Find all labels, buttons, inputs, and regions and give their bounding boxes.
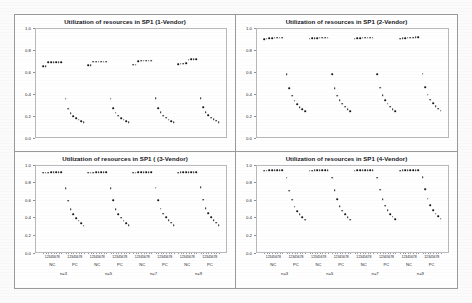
data-point xyxy=(263,170,265,172)
data-point xyxy=(125,120,127,122)
data-point xyxy=(205,208,207,210)
data-point xyxy=(327,169,329,171)
chart-panel-1-vendor[interactable]: Utilization of resources in SP1 (1-Vendo… xyxy=(15,15,236,152)
data-point xyxy=(128,121,130,123)
x-axis-tick-labels: 12345678 xyxy=(379,255,394,259)
data-point xyxy=(417,37,419,39)
data-point xyxy=(282,169,284,171)
data-point xyxy=(379,87,381,89)
x-axis-tick-labels: 12345678 xyxy=(356,255,371,259)
data-point xyxy=(384,205,386,207)
data-point xyxy=(185,63,187,65)
data-point xyxy=(349,219,351,221)
data-point xyxy=(399,170,401,172)
data-point xyxy=(347,108,349,110)
data-point xyxy=(135,172,137,174)
data-point xyxy=(73,214,75,216)
data-point xyxy=(203,106,205,108)
data-point xyxy=(432,209,434,211)
y-axis-tick-mark xyxy=(254,253,256,254)
data-point xyxy=(188,59,190,61)
y-axis-tick-label: 1.0 xyxy=(15,26,31,31)
data-point xyxy=(168,119,170,121)
data-point xyxy=(296,210,298,212)
data-point xyxy=(150,60,152,62)
data-point xyxy=(138,172,140,174)
data-point xyxy=(93,172,95,174)
chart-panel-3-vendor[interactable]: Utilization of resources in SP1 ( (3-Ven… xyxy=(15,152,236,289)
data-point xyxy=(105,61,107,63)
data-point xyxy=(304,219,306,221)
x-axis-tick-labels: 12345678 xyxy=(157,255,172,259)
data-point xyxy=(316,37,318,39)
y-axis-tick-label: 1.0 xyxy=(236,26,252,31)
data-point xyxy=(299,214,301,216)
data-point xyxy=(311,170,313,172)
x-axis-group-label: PC xyxy=(117,262,123,267)
y-axis-tick-mark xyxy=(254,217,256,218)
data-point xyxy=(53,61,55,63)
data-point xyxy=(344,106,346,108)
y-axis-tick-mark xyxy=(33,200,35,201)
y-axis-tick-mark xyxy=(33,235,35,236)
data-point xyxy=(113,108,115,110)
data-point xyxy=(266,170,268,172)
x-axis-tick-mark xyxy=(174,253,175,255)
data-point xyxy=(269,38,271,40)
x-axis-tick-labels: 12345678 xyxy=(135,255,150,259)
y-axis-tick-mark xyxy=(33,94,35,95)
data-point xyxy=(407,169,409,171)
chart-panel-2-vendor[interactable]: Utilization of resources in SP1 (2-Vendo… xyxy=(236,15,457,152)
data-point xyxy=(392,216,394,218)
y-axis-tick-label: 0.0 xyxy=(15,136,31,141)
y-axis-tick-mark xyxy=(33,253,35,254)
data-point xyxy=(213,119,215,121)
x-axis-section-label: n=3 xyxy=(60,271,67,276)
data-point xyxy=(95,61,97,63)
chart-panel-4-vendor[interactable]: Utilization of resources in SP1 (4-Vendo… xyxy=(236,152,457,289)
data-point xyxy=(170,120,172,122)
data-point xyxy=(50,61,52,63)
x-axis-group-label: NC xyxy=(361,262,367,267)
data-point xyxy=(390,213,392,215)
data-point xyxy=(123,119,125,121)
data-point xyxy=(407,37,409,39)
x-axis-tick-mark xyxy=(395,253,396,255)
data-point xyxy=(324,169,326,171)
data-point xyxy=(83,122,85,124)
data-point xyxy=(58,171,60,173)
data-point xyxy=(68,200,70,202)
data-point xyxy=(58,61,60,63)
data-point xyxy=(415,37,417,39)
x-axis-tick-mark xyxy=(151,253,152,255)
x-axis-tick-mark xyxy=(129,253,130,255)
data-point xyxy=(75,117,77,119)
data-point xyxy=(210,216,212,218)
figure-page: Utilization of resources in SP1 (1-Vendo… xyxy=(0,0,472,303)
y-axis-tick-label: 0.2 xyxy=(15,114,31,119)
data-point xyxy=(430,99,432,101)
figure-frame: Utilization of resources in SP1 (1-Vendo… xyxy=(14,14,458,289)
x-axis-tick-mark xyxy=(441,253,442,255)
x-axis-tick-labels: 12345678 xyxy=(67,255,82,259)
data-point xyxy=(110,187,112,189)
x-axis-tick-mark xyxy=(328,253,329,255)
data-point xyxy=(100,171,102,173)
data-point xyxy=(387,210,389,212)
data-point xyxy=(269,170,271,172)
data-point xyxy=(316,170,318,172)
data-point xyxy=(440,218,442,220)
x-axis-tick-mark xyxy=(84,253,85,255)
data-point xyxy=(319,37,321,39)
data-point xyxy=(347,216,349,218)
data-point xyxy=(200,186,202,188)
x-axis-tick-mark xyxy=(305,253,306,255)
data-point xyxy=(424,87,426,89)
x-axis-tick-mark xyxy=(219,253,220,255)
data-point xyxy=(73,115,75,117)
data-point xyxy=(188,171,190,173)
data-point xyxy=(271,37,273,39)
x-axis-group-label: NC xyxy=(270,262,276,267)
data-point xyxy=(322,37,324,39)
data-point xyxy=(357,170,359,172)
